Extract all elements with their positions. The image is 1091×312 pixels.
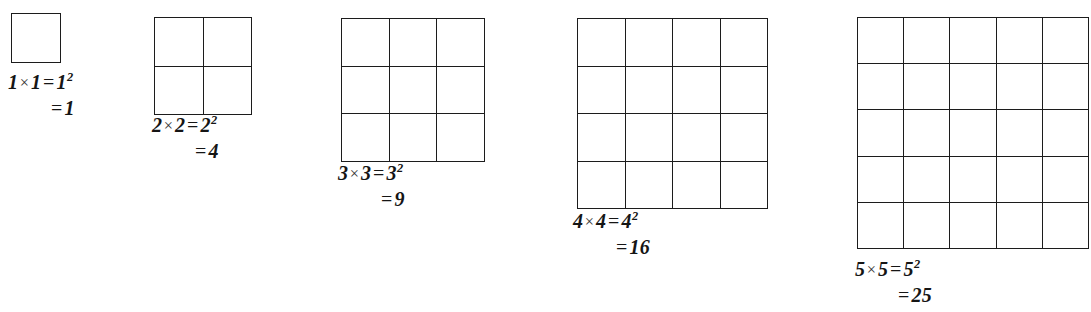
unit-cell	[950, 157, 996, 203]
unit-cell	[673, 19, 721, 67]
product-value-5: 25	[911, 284, 931, 306]
power-base-5: 5	[904, 258, 914, 280]
equals-sign-icon: =	[606, 210, 621, 232]
unit-cell	[904, 18, 950, 64]
equals-sign-icon: =	[41, 71, 56, 93]
unit-cell	[578, 67, 626, 115]
power-exponent-4: 2	[632, 209, 639, 223]
equation-label-3: 3×3=32=9	[338, 161, 405, 212]
square-numbers-figure: 1×1=12=12×2=22=43×3=32=94×4=42=165×5=52=…	[0, 0, 1091, 312]
factor-b-3: 3	[361, 162, 371, 184]
equation-line-product-3: 3×3=32	[338, 161, 405, 187]
power-base-1: 1	[57, 71, 67, 93]
unit-cell	[578, 19, 626, 67]
unit-cell	[390, 19, 438, 67]
unit-cell	[950, 203, 996, 249]
unit-cell	[997, 64, 1043, 110]
power-exponent-3: 2	[397, 161, 404, 175]
equals-sign-icon: =	[371, 162, 386, 184]
unit-cell	[626, 67, 674, 115]
equation-line-result-2: =4	[152, 139, 219, 164]
unit-cell	[437, 114, 485, 162]
unit-cell	[858, 110, 904, 156]
power-exponent-5: 2	[914, 257, 921, 271]
equation-line-product-2: 2×2=22	[152, 113, 219, 139]
equation-line-result-3: =9	[338, 187, 405, 212]
unit-cell	[12, 14, 61, 63]
unit-cell	[437, 67, 485, 115]
unit-cell	[204, 18, 253, 67]
unit-cell	[155, 67, 204, 116]
grid-2x2	[154, 17, 252, 115]
unit-cell	[904, 64, 950, 110]
unit-cell	[904, 203, 950, 249]
unit-cell	[1043, 64, 1089, 110]
unit-cell	[721, 162, 769, 210]
factor-b-2: 2	[175, 114, 185, 136]
power-base-3: 3	[387, 162, 397, 184]
unit-cell	[858, 18, 904, 64]
unit-cell	[997, 18, 1043, 64]
equals-sign-icon: =	[888, 258, 903, 280]
unit-cell	[578, 162, 626, 210]
unit-cell	[626, 114, 674, 162]
equals-sign-icon: =	[49, 97, 64, 119]
unit-cell	[858, 64, 904, 110]
unit-cell	[904, 157, 950, 203]
equals-sign-icon: =	[614, 236, 629, 258]
product-value-4: 16	[629, 236, 649, 258]
unit-cell	[1043, 203, 1089, 249]
equation-label-4: 4×4=42=16	[573, 209, 650, 260]
equation-label-1: 1×1=12=1	[8, 70, 75, 121]
factor-b-1: 1	[31, 71, 41, 93]
unit-cell	[1043, 110, 1089, 156]
equation-line-product-5: 5×5=52	[855, 257, 932, 283]
equation-line-result-1: =1	[8, 96, 75, 121]
equals-sign-icon: =	[379, 188, 394, 210]
multiplication-sign-icon: ×	[162, 116, 175, 135]
unit-cell	[721, 67, 769, 115]
unit-cell	[578, 114, 626, 162]
factor-a-2: 2	[152, 114, 162, 136]
equals-sign-icon: =	[193, 140, 208, 162]
unit-cell	[997, 157, 1043, 203]
power-base-4: 4	[622, 210, 632, 232]
unit-cell	[390, 67, 438, 115]
factor-a-3: 3	[338, 162, 348, 184]
unit-cell	[721, 114, 769, 162]
power-exponent-2: 2	[211, 113, 218, 127]
factor-b-5: 5	[878, 258, 888, 280]
unit-cell	[721, 19, 769, 67]
equation-line-result-4: =16	[573, 235, 650, 260]
grid-4x4	[577, 18, 768, 209]
unit-cell	[858, 203, 904, 249]
grid-1x1	[11, 13, 61, 63]
multiplication-sign-icon: ×	[865, 260, 878, 279]
unit-cell	[904, 110, 950, 156]
unit-cell	[1043, 18, 1089, 64]
unit-cell	[997, 203, 1043, 249]
unit-cell	[673, 114, 721, 162]
unit-cell	[342, 67, 390, 115]
product-value-3: 9	[394, 188, 404, 210]
equation-line-product-4: 4×4=42	[573, 209, 650, 235]
unit-cell	[437, 19, 485, 67]
unit-cell	[950, 64, 996, 110]
multiplication-sign-icon: ×	[583, 212, 596, 231]
unit-cell	[1043, 157, 1089, 203]
unit-cell	[950, 18, 996, 64]
unit-cell	[342, 114, 390, 162]
power-exponent-1: 2	[67, 70, 74, 84]
product-value-2: 4	[208, 140, 218, 162]
unit-cell	[997, 110, 1043, 156]
unit-cell	[950, 110, 996, 156]
unit-cell	[342, 19, 390, 67]
equation-label-2: 2×2=22=4	[152, 113, 219, 164]
unit-cell	[626, 19, 674, 67]
unit-cell	[626, 162, 674, 210]
unit-cell	[673, 67, 721, 115]
factor-a-1: 1	[8, 71, 18, 93]
unit-cell	[204, 67, 253, 116]
unit-cell	[390, 114, 438, 162]
multiplication-sign-icon: ×	[348, 164, 361, 183]
